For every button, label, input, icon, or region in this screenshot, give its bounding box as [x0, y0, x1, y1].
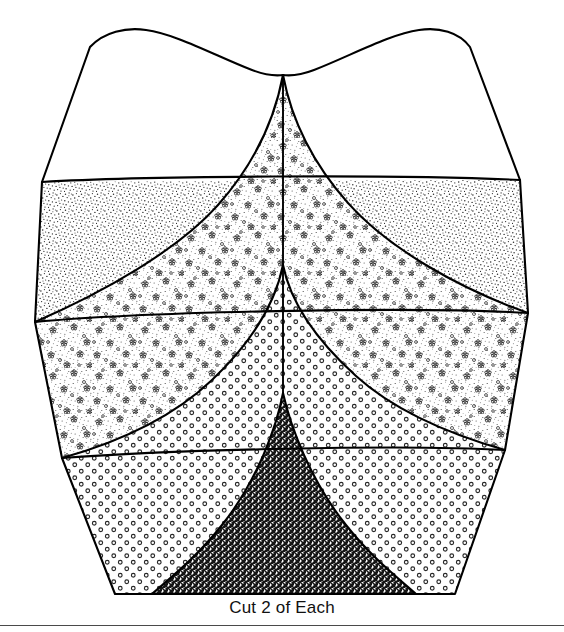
pattern-page: Cut 2 of Each — [0, 0, 564, 632]
pattern-figure — [0, 0, 564, 610]
footer-divider — [0, 625, 564, 626]
pattern-caption: Cut 2 of Each — [0, 598, 564, 618]
pattern-illustration-svg — [0, 0, 564, 610]
